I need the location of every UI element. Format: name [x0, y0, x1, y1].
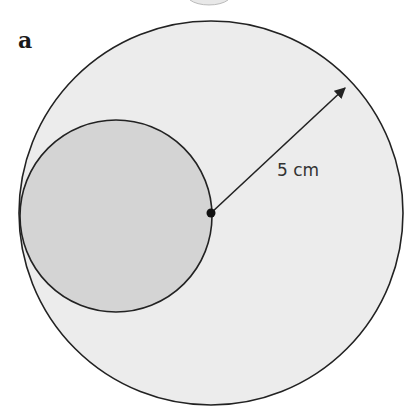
radius-label: 5 cm	[277, 160, 319, 180]
top-partial-shape	[190, 0, 228, 5]
part-label: a	[18, 27, 32, 53]
inner-circle	[20, 120, 212, 312]
center-point	[207, 209, 216, 218]
circle-diagram: a 5 cm	[0, 0, 418, 411]
